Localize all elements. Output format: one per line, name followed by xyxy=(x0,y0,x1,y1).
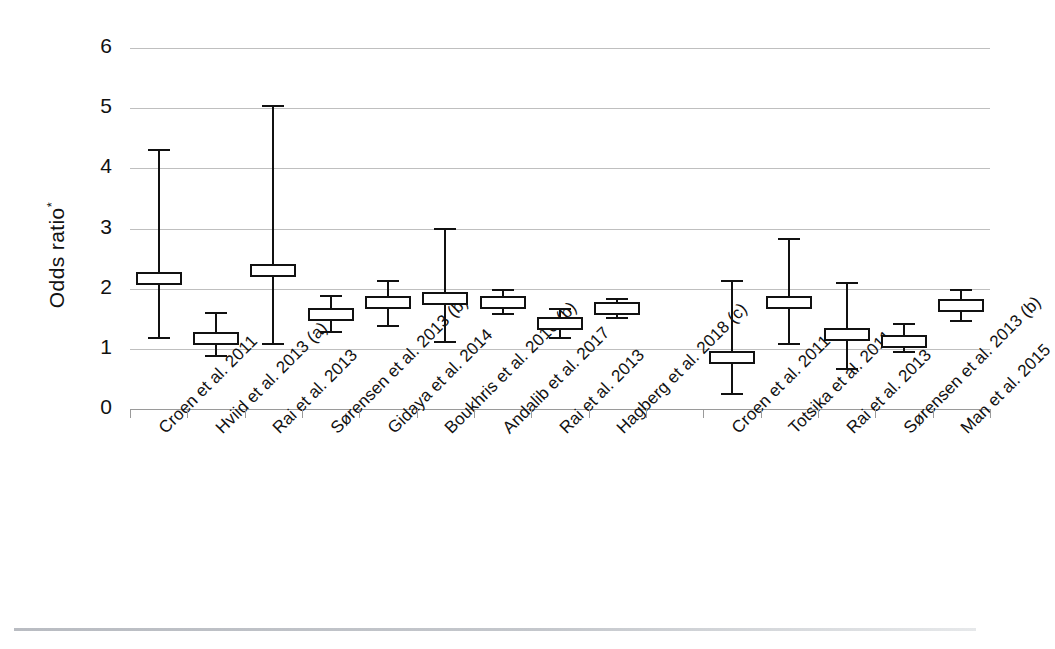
footer-divider xyxy=(14,628,976,631)
error-bar-cap-upper xyxy=(377,280,399,282)
y-tick-label-5: 5 xyxy=(0,94,112,118)
error-bar-line xyxy=(272,106,274,344)
point-estimate-box xyxy=(938,299,984,312)
error-bar-line xyxy=(444,229,446,342)
gridline-3 xyxy=(130,229,990,230)
y-axis-tick-labels: 0123456 xyxy=(0,48,130,409)
x-axis-tick xyxy=(187,409,188,418)
error-bar-cap-lower xyxy=(721,393,743,395)
point-estimate-box xyxy=(136,272,182,285)
x-axis-tick xyxy=(589,409,590,418)
y-tick-label-6: 6 xyxy=(0,34,112,58)
gridline-6 xyxy=(130,48,990,49)
x-axis-tick xyxy=(875,409,876,418)
error-bar-cap-upper xyxy=(606,298,628,300)
y-tick-label-1: 1 xyxy=(0,335,112,359)
error-bar-cap-lower xyxy=(893,351,915,353)
error-bar-cap-lower xyxy=(434,341,456,343)
x-axis-tick xyxy=(531,409,532,418)
x-axis-tick xyxy=(818,409,819,418)
error-bar-cap-lower xyxy=(205,355,227,357)
error-bar-cap-upper xyxy=(434,228,456,230)
gridline-2 xyxy=(130,289,990,290)
x-axis-tick xyxy=(761,409,762,418)
error-bar-line xyxy=(731,281,733,394)
point-estimate-box xyxy=(537,317,583,330)
x-axis-tick xyxy=(130,409,131,418)
x-axis-tick xyxy=(646,409,647,418)
x-axis-tick xyxy=(245,409,246,418)
x-axis-tick xyxy=(933,409,934,418)
error-bar-cap-lower xyxy=(320,331,342,333)
gridline-4 xyxy=(130,168,990,169)
error-bar-cap-lower xyxy=(148,337,170,339)
error-bar-cap-upper xyxy=(492,289,514,291)
point-estimate-box xyxy=(709,351,755,364)
error-bar-cap-upper xyxy=(205,312,227,314)
error-bar-cap-upper xyxy=(721,280,743,282)
point-estimate-box xyxy=(881,335,927,348)
x-axis-tick xyxy=(474,409,475,418)
y-tick-label-4: 4 xyxy=(0,154,112,178)
point-estimate-box xyxy=(422,292,468,305)
error-bar-cap-upper xyxy=(549,308,571,310)
error-bar-cap-upper xyxy=(893,323,915,325)
error-bar-cap-lower xyxy=(606,317,628,319)
error-bar-cap-lower xyxy=(262,343,284,345)
point-estimate-box xyxy=(250,264,296,277)
x-axis-tick xyxy=(417,409,418,418)
error-bar-line xyxy=(788,239,790,344)
error-bar-cap-upper xyxy=(836,282,858,284)
error-bar-cap-upper xyxy=(950,289,972,291)
error-bar-cap-lower xyxy=(950,320,972,322)
y-tick-label-0: 0 xyxy=(0,395,112,419)
x-axis-tick xyxy=(302,409,303,418)
error-bar-cap-upper xyxy=(320,295,342,297)
point-estimate-box xyxy=(365,296,411,309)
x-axis-tick xyxy=(990,409,991,418)
error-bar-cap-lower xyxy=(492,313,514,315)
x-axis-tick xyxy=(703,409,704,418)
y-tick-label-2: 2 xyxy=(0,275,112,299)
point-estimate-box xyxy=(594,302,640,315)
point-estimate-box xyxy=(308,308,354,321)
point-estimate-box xyxy=(193,332,239,345)
error-bar-cap-lower xyxy=(836,368,858,370)
error-bar-line xyxy=(158,150,160,338)
point-estimate-box xyxy=(480,296,526,309)
error-bar-cap-lower xyxy=(377,325,399,327)
point-estimate-box xyxy=(824,328,870,341)
error-bar-cap-lower xyxy=(778,343,800,345)
x-axis-tick xyxy=(359,409,360,418)
error-bar-line xyxy=(846,283,848,369)
error-bar-cap-upper xyxy=(262,105,284,107)
gridline-5 xyxy=(130,108,990,109)
y-tick-label-3: 3 xyxy=(0,215,112,239)
point-estimate-box xyxy=(766,296,812,309)
error-bar-cap-lower xyxy=(549,337,571,339)
error-bar-cap-upper xyxy=(778,238,800,240)
error-bar-cap-upper xyxy=(148,149,170,151)
